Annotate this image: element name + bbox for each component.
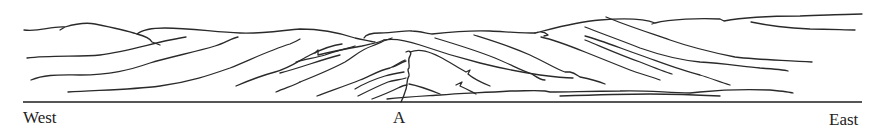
stratum-line-layer-w4 bbox=[236, 44, 342, 86]
stratum-line-layer-e8 bbox=[751, 22, 855, 30]
stratum-line-layer-e5 bbox=[606, 17, 812, 62]
stratum-line-layer-lower-2 bbox=[560, 94, 720, 96]
stratum-line-fold-limb-w4 bbox=[393, 61, 406, 67]
stratum-line-layer-e1 bbox=[474, 35, 605, 84]
stratum-line-fold-limb-e2 bbox=[456, 82, 476, 94]
stratum-line-skyline-east bbox=[535, 14, 862, 36]
stratum-line-layer-e3 bbox=[541, 37, 660, 80]
stratum-line-layer-c1 bbox=[300, 38, 392, 82]
stratum-line-fold-crest bbox=[410, 50, 490, 86]
stratum-line-layer-w1 bbox=[27, 37, 186, 58]
stratum-line-layer-w2 bbox=[31, 37, 238, 80]
strata-lines bbox=[24, 14, 862, 102]
stratum-line-layer-lower bbox=[387, 90, 793, 99]
stratum-line-fold-axis bbox=[401, 51, 411, 102]
stratum-line-skyline-center bbox=[364, 31, 535, 38]
stratum-line-skyline-west bbox=[24, 23, 160, 45]
label-west: West bbox=[23, 109, 57, 126]
stratum-line-layer-w5 bbox=[276, 82, 300, 92]
stratum-line-layer-e0 bbox=[384, 39, 573, 78]
geologic-cross-section-sketch bbox=[0, 0, 885, 134]
stratum-line-fold-limb-e1 bbox=[409, 84, 440, 94]
stratum-line-layer-w3 bbox=[68, 39, 300, 92]
label-point-a: A bbox=[393, 109, 405, 126]
stratum-line-layer-c4 bbox=[280, 55, 340, 73]
label-east: East bbox=[829, 111, 858, 128]
